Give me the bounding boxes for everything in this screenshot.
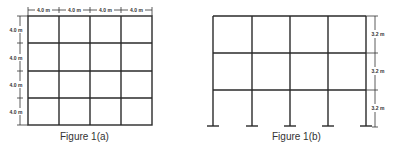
dim-right-3: 3.2 m bbox=[372, 105, 385, 111]
figure-a-grid bbox=[28, 16, 152, 125]
figure-b-frame bbox=[207, 16, 372, 126]
figure-a-left-dimensions: 4.0 m 4.0 m 4.0 m 4.0 m bbox=[10, 16, 28, 125]
dim-left-1: 4.0 m bbox=[10, 27, 23, 33]
dim-left-4: 4.0 m bbox=[10, 109, 23, 115]
dim-right-2: 3.2 m bbox=[372, 68, 385, 74]
figure-b-caption: Figure 1(b) bbox=[272, 131, 321, 142]
figure-a-top-dimensions: 4.0 m 4.0 m 4.0 m 4.0 m bbox=[28, 7, 152, 16]
figure-b-right-dimensions: 3.2 m 3.2 m 3.2 m bbox=[366, 16, 387, 127]
dim-top-2: 4.0 m bbox=[68, 7, 81, 13]
figure-a-caption: Figure 1(a) bbox=[60, 131, 109, 142]
dim-top-3: 4.0 m bbox=[99, 7, 112, 13]
dim-top-1: 4.0 m bbox=[37, 7, 50, 13]
dim-left-2: 4.0 m bbox=[10, 55, 23, 61]
dim-right-1: 3.2 m bbox=[372, 31, 385, 37]
dim-left-3: 4.0 m bbox=[10, 82, 23, 88]
dim-top-4: 4.0 m bbox=[130, 7, 143, 13]
